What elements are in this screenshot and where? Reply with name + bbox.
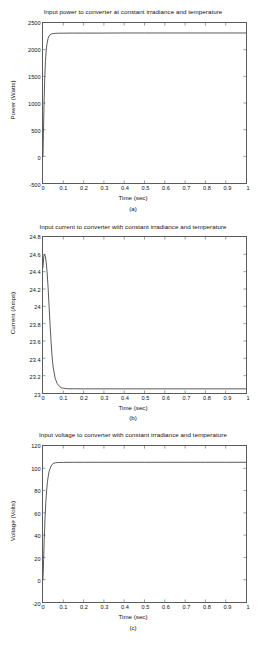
chart-panel-a: Input power to converter at constant irr… (0, 0, 266, 215)
x-tick-b-8: 0.8 (203, 395, 211, 401)
plot-curve-a (43, 23, 246, 183)
y-tick-b-3: 23.6 (30, 339, 41, 345)
x-tick-a-7: 0.7 (183, 185, 191, 191)
x-tick-b-0: 0 (41, 395, 44, 401)
y-tick-a-2: 500 (31, 128, 40, 134)
y-tick-b-9: 24.8 (30, 234, 41, 240)
sub-label-c: (c) (0, 624, 266, 632)
x-tick-c-4: 0.4 (121, 604, 129, 610)
plot-area-c: 120 100 80 60 40 20 0 -20 0 0.1 0.2 0.3 … (42, 445, 247, 603)
y-tick-c-0: -20 (32, 601, 40, 607)
y-axis-label-b: Current (Amps) (9, 278, 17, 348)
y-tick-a-5: 2000 (28, 47, 40, 53)
x-tick-c-6: 0.6 (162, 604, 170, 610)
y-tick-c-2: 20 (34, 556, 40, 562)
plot-area-a: 2500 2000 1500 1000 500 0 -500 0 0.1 0.2… (42, 22, 247, 184)
x-tick-a-5: 0.5 (142, 185, 150, 191)
chart-panel-b: Input current to converter with constant… (0, 215, 266, 425)
y-tick-c-5: 80 (34, 488, 40, 494)
y-tick-b-6: 24.2 (30, 287, 41, 293)
chart-title-a: Input power to converter at constant irr… (0, 8, 266, 16)
x-tick-a-6: 0.6 (162, 185, 170, 191)
plot-curve-c (43, 446, 246, 602)
x-tick-b-4: 0.4 (121, 395, 129, 401)
x-tick-a-9: 0.9 (224, 185, 232, 191)
sub-label-b: (b) (0, 414, 266, 422)
y-tick-a-1: 0 (37, 155, 40, 161)
x-axis-label-a: Time (sec) (0, 194, 266, 202)
chart-title-b: Input current to converter with constant… (0, 223, 266, 231)
y-tick-b-1: 23.2 (30, 374, 41, 380)
x-tick-c-5: 0.5 (142, 604, 150, 610)
x-tick-b-3: 0.3 (101, 395, 109, 401)
x-tick-b-10: 1 (246, 395, 249, 401)
y-tick-c-6: 100 (31, 466, 40, 472)
x-tick-c-0: 0 (41, 604, 44, 610)
y-tick-c-1: 0 (37, 578, 40, 584)
x-tick-c-7: 0.7 (183, 604, 191, 610)
y-axis-label-c: Voltage (Volts) (9, 486, 17, 556)
y-tick-c-7: 120 (31, 443, 40, 449)
y-tick-b-7: 24.4 (30, 269, 41, 275)
x-tick-c-10: 1 (246, 604, 249, 610)
x-tick-c-1: 0.1 (60, 604, 68, 610)
sub-label-a: (a) (0, 205, 266, 213)
x-tick-c-8: 0.8 (203, 604, 211, 610)
x-tick-a-4: 0.4 (121, 185, 129, 191)
y-tick-a-0: -500 (29, 182, 40, 188)
y-tick-b-8: 24.6 (30, 252, 41, 258)
figure-stack: Input power to converter at constant irr… (0, 0, 266, 652)
y-tick-b-0: 23 (34, 392, 40, 398)
x-tick-c-3: 0.3 (101, 604, 109, 610)
x-tick-a-10: 1 (246, 185, 249, 191)
chart-title-c: Input voltage to converter with constant… (0, 431, 266, 439)
x-tick-b-7: 0.7 (183, 395, 191, 401)
plot-area-b: 24.8 24.6 24.4 24.2 24 23.8 23.6 23.4 23… (42, 236, 247, 394)
y-tick-b-5: 24 (34, 304, 40, 310)
x-tick-a-3: 0.3 (101, 185, 109, 191)
y-axis-label-a: Power (Watts) (9, 65, 17, 135)
y-tick-b-2: 23.4 (30, 357, 41, 363)
y-tick-b-4: 23.8 (30, 322, 41, 328)
y-tick-c-4: 60 (34, 511, 40, 517)
y-tick-a-3: 1000 (28, 101, 40, 107)
chart-panel-c: Input voltage to converter with constant… (0, 425, 266, 652)
y-tick-a-6: 2500 (28, 20, 40, 26)
y-tick-a-4: 1500 (28, 74, 40, 80)
x-tick-a-1: 0.1 (60, 185, 68, 191)
x-axis-label-b: Time (sec) (0, 404, 266, 412)
x-tick-b-9: 0.9 (224, 395, 232, 401)
x-tick-c-2: 0.2 (80, 604, 88, 610)
x-tick-b-6: 0.6 (162, 395, 170, 401)
x-tick-a-2: 0.2 (80, 185, 88, 191)
x-tick-c-9: 0.9 (224, 604, 232, 610)
x-axis-label-c: Time (sec) (0, 613, 266, 621)
x-tick-a-0: 0 (41, 185, 44, 191)
x-tick-a-8: 0.8 (203, 185, 211, 191)
x-tick-b-5: 0.5 (142, 395, 150, 401)
x-tick-b-1: 0.1 (60, 395, 68, 401)
plot-curve-b (43, 237, 246, 393)
y-tick-c-3: 40 (34, 533, 40, 539)
x-tick-b-2: 0.2 (80, 395, 88, 401)
